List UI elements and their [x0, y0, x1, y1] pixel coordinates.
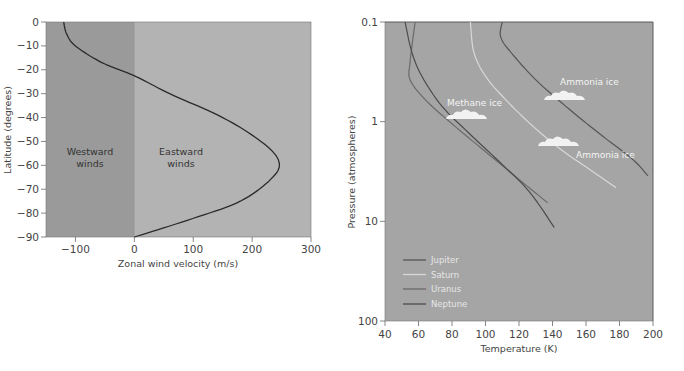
y-tick-label: −60 [17, 159, 39, 171]
y-axis-title: Latitude (degrees) [2, 86, 13, 174]
x-tick-label: 160 [576, 328, 596, 340]
plot-background [385, 22, 653, 321]
y-tick-label: 1 [371, 115, 378, 127]
y-tick-label: 100 [358, 315, 378, 327]
y-axis-ticks: 0.1110100 [358, 16, 385, 327]
x-tick-label: 80 [445, 328, 458, 340]
x-axis-ticks: 406080100120140160180200 [378, 321, 663, 340]
x-tick-label: 100 [183, 243, 203, 255]
x-tick-label: 100 [475, 328, 495, 340]
x-axis-title: Temperature (K) [480, 343, 558, 354]
legend-uranus: Uranus [431, 284, 462, 294]
x-axis-ticks: −1000100200300 [61, 237, 321, 255]
x-tick-label: 120 [509, 328, 529, 340]
y-tick-label: −80 [17, 207, 39, 219]
y-tick-label: −70 [17, 183, 39, 195]
legend-jupiter: Jupiter [430, 255, 459, 265]
x-axis-title: Zonal wind velocity (m/s) [118, 258, 238, 269]
legend-saturn: Saturn [431, 270, 459, 280]
y-tick-label: −50 [17, 135, 39, 147]
figure: 0−10−20−30−40−50−60−70−80−90 −1000100200… [0, 0, 684, 371]
x-tick-label: 140 [542, 328, 562, 340]
y-tick-label: 0 [32, 16, 39, 28]
ammonia-ice-label-upper: Ammonia ice [560, 77, 619, 87]
y-tick-label: −30 [17, 87, 39, 99]
x-tick-label: 180 [609, 328, 629, 340]
y-tick-label: 0.1 [361, 16, 378, 28]
methane-ice-label: Methane ice [447, 98, 503, 108]
eastward-label-1: Eastward [159, 146, 203, 157]
wind-chart: 0−10−20−30−40−50−60−70−80−90 −1000100200… [2, 16, 321, 270]
eastward-label-2: winds [167, 158, 194, 169]
x-tick-label: 200 [242, 243, 262, 255]
pressure-temperature-chart: 0.1110100 406080100120140160180200 Metha… [346, 16, 663, 355]
westward-label-1: Westward [67, 146, 114, 157]
y-tick-label: −40 [17, 111, 39, 123]
y-tick-label: −20 [17, 63, 39, 75]
ammonia-ice-label-lower: Ammonia ice [576, 150, 635, 160]
y-tick-label: −90 [17, 231, 39, 243]
y-axis-title: Pressure (atmospheres) [346, 116, 357, 229]
x-tick-label: 300 [301, 243, 321, 255]
x-tick-label: 40 [378, 328, 391, 340]
x-tick-label: 0 [131, 243, 138, 255]
y-tick-label: −10 [17, 39, 39, 51]
eastward-region [134, 22, 311, 237]
x-tick-label: 60 [412, 328, 425, 340]
y-axis-ticks: 0−10−20−30−40−50−60−70−80−90 [17, 16, 46, 243]
y-tick-label: 10 [365, 215, 378, 227]
legend-neptune: Neptune [431, 299, 467, 309]
westward-label-2: winds [76, 158, 103, 169]
westward-region [46, 22, 134, 237]
x-tick-label: 200 [643, 328, 663, 340]
x-tick-label: −100 [61, 243, 90, 255]
